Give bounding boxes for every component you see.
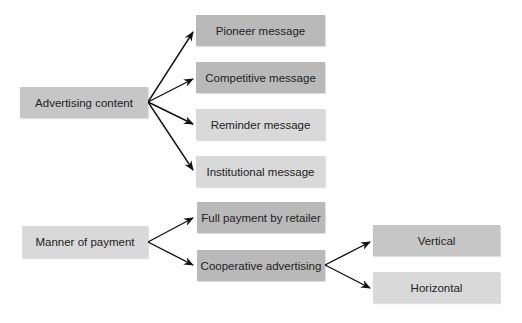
node-manner-of-payment: Manner of payment bbox=[22, 226, 148, 258]
arrow-to-institutional bbox=[148, 102, 193, 170]
arrow-to-full-payment bbox=[148, 218, 193, 242]
node-pioneer-message: Pioneer message bbox=[196, 15, 325, 46]
arrow-to-vertical bbox=[325, 242, 370, 265]
node-competitive-message: Competitive message bbox=[196, 62, 325, 93]
node-full-payment: Full payment by retailer bbox=[197, 202, 325, 233]
node-cooperative-advertising: Cooperative advertising bbox=[197, 250, 325, 281]
node-institutional-message: Institutional message bbox=[196, 156, 325, 187]
arrow-to-pioneer bbox=[148, 32, 193, 102]
node-reminder-message: Reminder message bbox=[196, 109, 325, 140]
node-horizontal: Horizontal bbox=[373, 272, 500, 303]
arrow-to-horizontal bbox=[325, 265, 370, 288]
node-advertising-content: Advertising content bbox=[20, 87, 148, 118]
arrow-to-cooperative bbox=[148, 242, 193, 265]
node-vertical: Vertical bbox=[373, 225, 500, 256]
